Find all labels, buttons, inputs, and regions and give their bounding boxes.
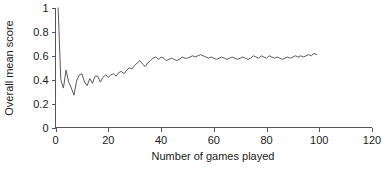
x-tick-label: 0 (52, 134, 58, 146)
y-tick-label: 0.2 (33, 98, 48, 110)
x-axis-ticks (57, 128, 373, 132)
y-axis-title: Overall mean score (3, 20, 15, 115)
y-tick-label: 0.4 (33, 74, 48, 86)
y-tick-label: 0.8 (33, 26, 48, 38)
y-tick-label: 1 (42, 2, 48, 14)
x-tick-label: 100 (310, 134, 328, 146)
y-tick-label: 0.6 (33, 50, 48, 62)
x-axis-tick-labels: 020406080100120 (52, 134, 381, 146)
chart-figure: 00.20.40.60.81 020406080100120 Number of… (0, 0, 391, 170)
x-tick-label: 120 (363, 134, 381, 146)
data-series-line (58, 8, 316, 95)
x-tick-label: 80 (260, 134, 272, 146)
axes (56, 8, 373, 128)
line-chart: 00.20.40.60.81 020406080100120 Number of… (0, 0, 391, 170)
x-tick-label: 20 (102, 134, 114, 146)
y-tick-label: 0 (42, 122, 48, 134)
y-axis-tick-labels: 00.20.40.60.81 (33, 2, 48, 134)
x-axis-title: Number of games played (152, 150, 275, 162)
y-axis-ticks (52, 9, 56, 129)
x-tick-label: 40 (155, 134, 167, 146)
x-tick-label: 60 (208, 134, 220, 146)
